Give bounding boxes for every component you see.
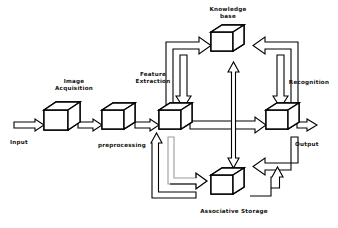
arrow-knowledge-base-associative-storage-double (228, 62, 239, 168)
arrow-recognition-to-knowledge-base (253, 37, 298, 105)
label-knowledge-base: Knowledgebase (198, 6, 258, 21)
arrow-input-to-image-acquisition (14, 119, 44, 131)
label-image-acquisition-line1: Image (64, 78, 85, 84)
node-image-acquisition[interactable] (44, 102, 80, 130)
node-recognition[interactable] (266, 103, 299, 129)
label-image-acquisition: ImageAcquisition (44, 78, 104, 93)
node-feature-extraction[interactable] (159, 103, 192, 129)
system-block-diagram (0, 0, 338, 228)
label-preprocessing: preprocessing (91, 142, 153, 149)
arrow-image-acquisition-to-preprocessing (78, 119, 102, 131)
node-preprocessing[interactable] (102, 103, 135, 129)
label-output: Output (295, 141, 333, 148)
node-knowledge-base[interactable] (211, 25, 244, 51)
label-knowledge-base-line1: Knowledge (209, 6, 246, 12)
label-recognition: Recognition (282, 79, 336, 86)
arrow-feature-extraction-to-associative-storage (168, 137, 207, 189)
label-feature-extraction-line2: Extraction (136, 78, 171, 84)
arrow-recognition-to-associative-storage (253, 137, 298, 175)
label-input: Input (10, 139, 44, 146)
arrow-feature-extraction-to-recognition (190, 117, 266, 133)
label-associative-storage: Associative Storage (186, 208, 282, 215)
node-associative-storage[interactable] (211, 168, 244, 194)
label-feature-extraction: FeatureExtraction (124, 71, 182, 86)
label-knowledge-base-line2: base (220, 13, 236, 19)
label-feature-extraction-line1: Feature (140, 71, 166, 77)
arrow-associative-storage-to-recognition (250, 167, 283, 196)
diagram-canvas: ImageAcquisition preprocessing FeatureEx… (0, 0, 338, 228)
arrow-preprocessing-to-feature-extraction (135, 119, 159, 131)
label-image-acquisition-line2: Acquisition (55, 85, 93, 91)
arrow-recognition-to-output (297, 119, 317, 131)
